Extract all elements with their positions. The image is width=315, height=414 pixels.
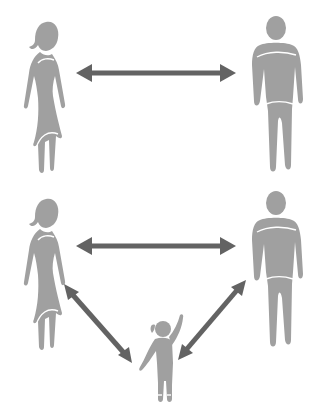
child-figure — [139, 314, 183, 402]
bottom-woman-figure — [24, 199, 65, 350]
top-bidirectional-arrow — [76, 64, 236, 82]
top-man-figure — [252, 16, 303, 172]
man-child-arrow — [178, 280, 246, 360]
bottom-man-figure — [252, 191, 303, 347]
bottom-bidirectional-arrow — [76, 237, 236, 255]
relationship-diagram — [0, 0, 315, 414]
top-woman-figure — [24, 22, 65, 173]
woman-child-arrow — [64, 284, 132, 363]
